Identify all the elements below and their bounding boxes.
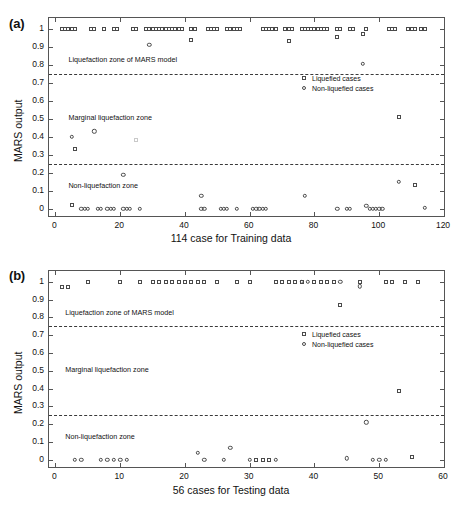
x-tick bbox=[120, 18, 121, 22]
x-tick bbox=[444, 18, 445, 22]
y-tick-label: 0.9 bbox=[32, 294, 44, 304]
panel-b-zone-label-lower: Non-liquefaction zone bbox=[65, 432, 135, 441]
data-point-liquefied bbox=[403, 280, 407, 284]
x-tick-label: 10 bbox=[114, 471, 123, 481]
data-point-liquefied bbox=[86, 280, 90, 284]
data-point-liquefied bbox=[215, 27, 219, 31]
y-tick-label: 0.2 bbox=[32, 167, 44, 177]
y-tick-label: 0.6 bbox=[32, 95, 44, 105]
y-tick-label: 0.1 bbox=[32, 185, 44, 195]
data-point-liquefied bbox=[202, 280, 206, 284]
threshold-line bbox=[49, 326, 444, 327]
y-tick bbox=[440, 317, 444, 318]
x-tick-label: 40 bbox=[309, 471, 318, 481]
threshold-line bbox=[49, 74, 444, 75]
x-tick-label: 20 bbox=[179, 471, 188, 481]
y-tick-label: 0.7 bbox=[32, 77, 44, 87]
y-tick bbox=[49, 191, 53, 192]
data-point-liquefied bbox=[397, 115, 401, 119]
y-tick-label: 0 bbox=[39, 454, 44, 464]
data-point-non-liquefied bbox=[105, 458, 109, 462]
data-point-non-liquefied bbox=[225, 207, 229, 211]
y-tick bbox=[440, 137, 444, 138]
x-tick bbox=[250, 463, 251, 467]
panel-b-y-axis-label: MARS output bbox=[12, 352, 24, 414]
x-tick bbox=[120, 463, 121, 467]
y-tick bbox=[49, 424, 53, 425]
legend-entry-non-liquefied: Non-liquefied cases bbox=[299, 339, 373, 349]
y-tick bbox=[49, 353, 53, 354]
y-tick bbox=[49, 282, 53, 283]
data-point-liquefied bbox=[261, 458, 265, 462]
data-point-non-liquefied bbox=[348, 207, 352, 211]
y-tick bbox=[440, 282, 444, 283]
data-point-liquefied bbox=[287, 280, 291, 284]
data-point-liquefied bbox=[361, 32, 365, 36]
x-tick-label: 60 bbox=[438, 471, 447, 481]
y-tick-label: 0.7 bbox=[32, 329, 44, 339]
y-tick bbox=[440, 209, 444, 210]
data-point-liquefied bbox=[238, 27, 242, 31]
data-point-non-liquefied bbox=[79, 458, 83, 462]
y-tick-label: 0.8 bbox=[32, 59, 44, 69]
y-tick bbox=[440, 155, 444, 156]
data-point-non-liquefied bbox=[396, 180, 400, 184]
legend-label-non-liquefied: Non-liquefied cases bbox=[312, 85, 373, 92]
x-tick bbox=[250, 271, 251, 275]
panel-a-plot-area: Liquefaction zone of MARS model Marginal… bbox=[48, 17, 445, 217]
y-tick bbox=[440, 101, 444, 102]
y-tick bbox=[440, 389, 444, 390]
data-point-liquefied bbox=[193, 27, 197, 31]
data-point-non-liquefied bbox=[121, 172, 125, 176]
data-point-non-liquefied bbox=[228, 446, 232, 450]
y-tick bbox=[49, 173, 53, 174]
data-point-liquefied bbox=[364, 27, 368, 31]
data-point-liquefied bbox=[134, 138, 138, 142]
panel-b-zone-label-upper: Liquefaction zone of MARS model bbox=[65, 308, 174, 317]
y-tick bbox=[440, 371, 444, 372]
data-point-liquefied bbox=[134, 27, 138, 31]
data-point-non-liquefied bbox=[196, 451, 200, 455]
data-point-liquefied bbox=[319, 280, 323, 284]
panel-b-tag: (b) bbox=[9, 268, 25, 283]
data-point-liquefied bbox=[118, 280, 122, 284]
y-tick bbox=[440, 460, 444, 461]
y-tick bbox=[49, 101, 53, 102]
y-tick-label: 0.3 bbox=[32, 149, 44, 159]
y-tick bbox=[440, 424, 444, 425]
y-tick-label: 0.8 bbox=[32, 311, 44, 321]
data-point-non-liquefied bbox=[303, 193, 307, 197]
data-point-non-liquefied bbox=[147, 43, 151, 47]
data-point-liquefied bbox=[384, 280, 388, 284]
x-tick-label: 30 bbox=[244, 471, 253, 481]
data-point-liquefied bbox=[290, 27, 294, 31]
y-tick bbox=[49, 460, 53, 461]
data-point-liquefied bbox=[115, 27, 119, 31]
y-tick bbox=[440, 29, 444, 30]
panel-b: (b) MARS output Liquefaction zone of MAR… bbox=[0, 252, 462, 505]
data-point-liquefied bbox=[92, 27, 96, 31]
x-tick bbox=[55, 212, 56, 216]
data-point-liquefied bbox=[312, 280, 316, 284]
data-point-liquefied bbox=[73, 147, 77, 151]
y-tick bbox=[49, 29, 53, 30]
data-point-liquefied bbox=[293, 280, 297, 284]
data-point-non-liquefied bbox=[377, 458, 381, 462]
x-tick bbox=[444, 463, 445, 467]
data-point-non-liquefied bbox=[380, 207, 384, 211]
data-point-non-liquefied bbox=[92, 129, 96, 133]
x-tick bbox=[314, 463, 315, 467]
x-tick-label: 40 bbox=[179, 220, 188, 230]
y-tick bbox=[49, 119, 53, 120]
y-tick-label: 0.5 bbox=[32, 365, 44, 375]
data-point-liquefied bbox=[177, 280, 181, 284]
y-tick bbox=[49, 47, 53, 48]
data-point-liquefied bbox=[280, 280, 284, 284]
y-tick-label: 0.5 bbox=[32, 113, 44, 123]
y-tick-label: 0 bbox=[39, 203, 44, 213]
x-tick-label: 0 bbox=[52, 220, 57, 230]
y-tick-label: 1 bbox=[39, 23, 44, 33]
data-point-non-liquefied bbox=[86, 207, 90, 211]
data-point-non-liquefied bbox=[335, 207, 339, 211]
y-tick bbox=[49, 442, 53, 443]
